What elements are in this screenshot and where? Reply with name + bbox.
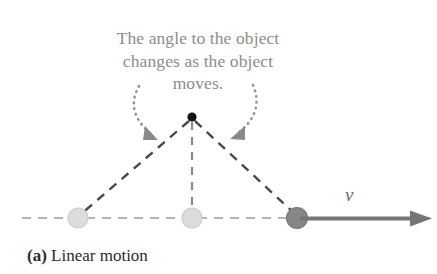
object-position-2 [182,208,202,228]
diagram-canvas [0,0,437,274]
caption-text: Linear motion [47,246,148,265]
linear-motion-figure: The angle to the object changes as the o… [0,0,437,274]
figure-caption: (a) Linear motion [27,246,148,266]
velocity-arrow-head [410,211,432,227]
object-position-1 [68,208,88,228]
velocity-label: v [345,184,353,206]
callout-arrow-left-curve [134,86,150,133]
observer-point [187,112,196,121]
callout-arrow-right-head [230,126,245,140]
caption-label: (a) [27,246,47,265]
callout-arrow-right-curve [238,85,257,133]
sight-line-left [80,121,189,215]
callout-arrow-left-head [143,126,158,140]
